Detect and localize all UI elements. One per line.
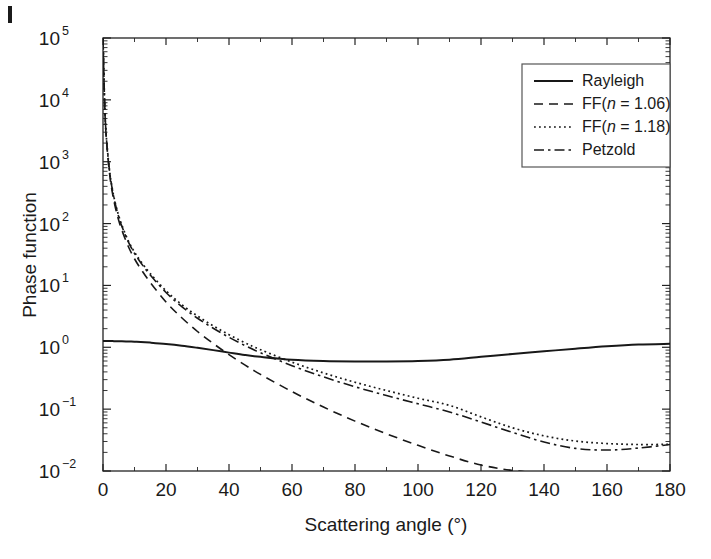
legend-label: Rayleigh <box>582 72 644 89</box>
svg-text:1: 1 <box>62 271 69 285</box>
y-tick-label: 10−1 <box>39 395 76 420</box>
x-axis-tick-labels: 020406080100120140160180 <box>98 479 686 500</box>
x-tick-label: 180 <box>654 479 686 500</box>
svg-text:10: 10 <box>39 337 60 358</box>
svg-text:10: 10 <box>39 90 60 111</box>
x-axis-title: Scattering angle (°) <box>305 514 468 535</box>
x-tick-label: 140 <box>528 479 560 500</box>
x-tick-label: 120 <box>465 479 497 500</box>
svg-text:2: 2 <box>62 210 69 224</box>
y-axis-title: Phase function <box>19 192 40 318</box>
legend: RayleighFF(n = 1.06)FF(n = 1.18)Petzold <box>522 64 670 167</box>
svg-text:10: 10 <box>39 152 60 173</box>
svg-text:4: 4 <box>62 86 69 100</box>
legend-label: FF(n = 1.18) <box>582 118 670 135</box>
svg-text:10: 10 <box>39 275 60 296</box>
svg-text:3: 3 <box>62 148 69 162</box>
phase-function-chart: 020406080100120140160180 10−210−11001011… <box>0 0 711 559</box>
y-tick-label: 10−2 <box>39 457 76 482</box>
svg-text:0: 0 <box>62 333 69 347</box>
y-tick-label: 102 <box>39 210 69 235</box>
y-tick-label: 100 <box>39 333 69 358</box>
y-axis-tick-labels: 10−210−1100101102103104105 <box>39 24 76 482</box>
legend-label: FF(n = 1.06) <box>582 95 670 112</box>
y-tick-label: 101 <box>39 271 69 296</box>
legend-label: Petzold <box>582 141 635 158</box>
x-tick-label: 160 <box>591 479 623 500</box>
svg-text:10: 10 <box>39 28 60 49</box>
x-tick-label: 40 <box>218 479 239 500</box>
x-tick-label: 0 <box>98 479 109 500</box>
svg-text:−1: −1 <box>62 395 76 409</box>
svg-text:10: 10 <box>39 214 60 235</box>
svg-text:10: 10 <box>39 399 60 420</box>
svg-text:10: 10 <box>39 461 60 482</box>
x-tick-label: 20 <box>155 479 176 500</box>
svg-text:5: 5 <box>62 24 69 38</box>
chart-svg: 020406080100120140160180 10−210−11001011… <box>0 0 711 559</box>
y-tick-label: 105 <box>39 24 69 49</box>
y-tick-label: 103 <box>39 148 69 173</box>
y-tick-label: 104 <box>39 86 69 111</box>
x-tick-label: 80 <box>344 479 365 500</box>
svg-text:−2: −2 <box>62 457 76 471</box>
x-tick-label: 60 <box>281 479 302 500</box>
x-tick-label: 100 <box>402 479 434 500</box>
